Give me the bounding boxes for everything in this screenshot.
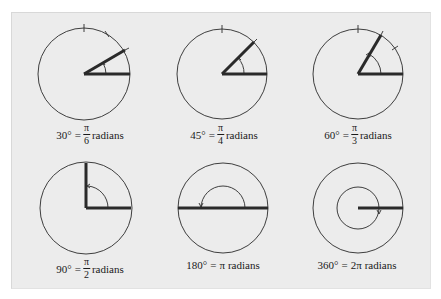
label-90-degrees: 90° = π 2 radians [56, 257, 123, 280]
unit-label: radians [365, 259, 397, 271]
fraction-numerator: π [83, 123, 90, 135]
fraction-denominator: 3 [352, 135, 357, 146]
label-30-degrees: 30° = π 6 radians [56, 123, 123, 146]
label-45-degrees: 45° = π 4 radians [190, 123, 257, 146]
radian-value: π [219, 259, 225, 271]
fraction-denominator: 4 [218, 135, 223, 146]
degrees-value: 60° [324, 129, 339, 141]
fraction-numerator: π [351, 123, 358, 135]
diagram-45-degrees [177, 25, 267, 119]
equals-sign: = [343, 129, 349, 141]
label-360-degrees: 360° = 2π radians [318, 259, 397, 271]
unit-label: radians [226, 129, 258, 141]
degrees-value: 360° [318, 259, 339, 271]
radian-fraction: π 2 [83, 257, 90, 280]
diagram-60-degrees [313, 25, 403, 119]
equals-sign: = [210, 259, 216, 271]
fraction-numerator: π [217, 123, 224, 135]
unit-label: radians [92, 129, 124, 141]
diagram-90-degrees [40, 162, 132, 254]
equals-sign: = [209, 129, 215, 141]
radian-fraction: π 4 [217, 123, 224, 146]
unit-label: radians [228, 259, 260, 271]
degrees-value: 90° [56, 263, 71, 275]
radian-fraction: π 6 [83, 123, 90, 146]
equals-sign: = [75, 263, 81, 275]
diagram-360-degrees [313, 163, 403, 253]
degrees-value: 45° [190, 129, 205, 141]
equals-sign: = [75, 129, 81, 141]
equals-sign: = [341, 259, 347, 271]
degrees-value: 180° [186, 259, 207, 271]
unit-label: radians [360, 129, 392, 141]
radian-value: 2π [351, 259, 362, 271]
diagram-30-degrees [38, 24, 130, 120]
fraction-denominator: 2 [84, 269, 89, 280]
fraction-numerator: π [83, 257, 90, 269]
label-180-degrees: 180° = π radians [186, 259, 259, 271]
angle-diagrams [0, 0, 441, 299]
fraction-denominator: 6 [84, 135, 89, 146]
degrees-value: 30° [56, 129, 71, 141]
radian-fraction: π 3 [351, 123, 358, 146]
label-60-degrees: 60° = π 3 radians [324, 123, 391, 146]
unit-label: radians [92, 263, 124, 275]
diagram-180-degrees [178, 163, 268, 253]
